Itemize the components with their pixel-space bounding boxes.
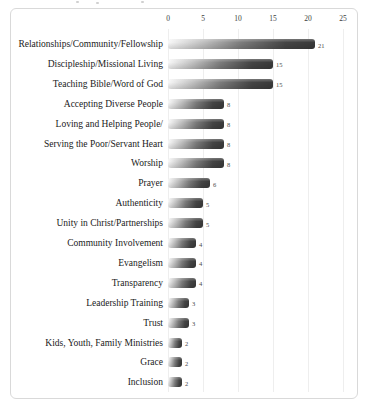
category-label: Evangelism	[15, 258, 163, 268]
value-label: 5	[206, 200, 209, 207]
bar	[168, 318, 189, 328]
bar	[168, 238, 196, 248]
text-speck	[76, 1, 79, 3]
bar	[168, 99, 224, 109]
bar	[168, 178, 210, 188]
x-axis-tick-label: 0	[166, 14, 170, 23]
grid-line	[273, 29, 274, 392]
value-label: 3	[192, 300, 195, 307]
text-speck	[96, 2, 99, 4]
x-axis-tick-label: 25	[339, 14, 347, 23]
value-label: 2	[185, 340, 188, 347]
category-label: Authenticity	[15, 198, 163, 208]
bar	[168, 59, 273, 69]
category-label: Worship	[15, 158, 163, 168]
category-label: Teaching Bible/Word of God	[15, 79, 163, 89]
bar	[168, 338, 182, 348]
x-axis-tick-label: 15	[269, 14, 277, 23]
value-label: 4	[199, 240, 202, 247]
category-label: Accepting Diverse People	[15, 99, 163, 109]
bar	[168, 139, 224, 149]
category-label: Prayer	[15, 178, 163, 188]
text-speck	[141, 1, 144, 3]
category-label: Inclusion	[15, 377, 163, 387]
value-label: 2	[185, 379, 188, 386]
value-label: 6	[213, 180, 216, 187]
bar	[168, 278, 196, 288]
x-axis-tick-label: 10	[234, 14, 242, 23]
value-label: 21	[318, 41, 325, 48]
bar	[168, 357, 182, 367]
x-axis-tick-label: 5	[201, 14, 205, 23]
category-label: Transparency	[15, 278, 163, 288]
page: { "chart_data": { "type": "bar", "orient…	[0, 0, 368, 415]
value-label: 15	[276, 61, 283, 68]
category-label: Community Involvement	[15, 238, 163, 248]
value-label: 3	[192, 320, 195, 327]
bar	[168, 119, 224, 129]
bar	[168, 158, 224, 168]
value-label: 8	[227, 121, 230, 128]
category-label: Leadership Training	[15, 298, 163, 308]
category-label: Loving and Helping People/	[15, 119, 163, 129]
bar	[168, 39, 315, 49]
bar	[168, 377, 182, 387]
value-label: 8	[227, 101, 230, 108]
value-label: 2	[185, 359, 188, 366]
value-label: 15	[276, 81, 283, 88]
value-label: 4	[199, 280, 202, 287]
value-label: 8	[227, 141, 230, 148]
bar	[168, 198, 203, 208]
value-label: 8	[227, 160, 230, 167]
bar	[168, 79, 273, 89]
category-label: Grace	[15, 357, 163, 367]
category-label: Serving the Poor/Servant Heart	[15, 139, 163, 149]
bar	[168, 218, 203, 228]
category-label: Trust	[15, 318, 163, 328]
bar	[168, 258, 196, 268]
x-axis-tick-label: 20	[304, 14, 312, 23]
category-label: Unity in Christ/Partnerships	[15, 218, 163, 228]
bar	[168, 298, 189, 308]
category-label: Discipleship/Missional Living	[15, 59, 163, 69]
category-label: Relationships/Community/Fellowship	[15, 39, 163, 49]
value-label: 4	[199, 260, 202, 267]
category-label: Kids, Youth, Family Ministries	[15, 338, 163, 348]
bar-chart-frame: 0510152025Relationships/Community/Fellow…	[10, 8, 358, 399]
grid-line	[343, 29, 344, 392]
value-label: 5	[206, 220, 209, 227]
grid-line	[308, 29, 309, 392]
